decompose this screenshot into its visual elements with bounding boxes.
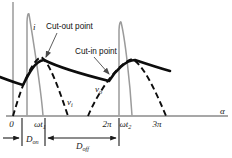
wt2-subscript: 2 bbox=[128, 123, 131, 130]
d-off-label: Doff bbox=[75, 141, 90, 152]
current-spike-2 bbox=[119, 22, 132, 116]
tick-wt1: ωt1 bbox=[34, 119, 46, 130]
vo-subscript: o bbox=[99, 88, 102, 95]
output-voltage-label: vo bbox=[95, 84, 102, 95]
alpha-axis-label: α bbox=[220, 106, 225, 116]
tick-2pi: 2π bbox=[102, 119, 112, 129]
wt1-subscript: 1 bbox=[43, 123, 46, 130]
cutout-point-label: Cut-out point bbox=[46, 22, 94, 31]
current-label: i bbox=[33, 22, 36, 32]
tick-wt2: ωt2 bbox=[120, 119, 132, 130]
tick-3pi: 3π bbox=[151, 119, 162, 129]
doff-subscript: off bbox=[83, 145, 91, 152]
tick-origin: 0 bbox=[9, 119, 14, 129]
cutout-arrow bbox=[46, 33, 57, 57]
cutin-arrow bbox=[94, 57, 109, 74]
cutin-point-label: Cut-in point bbox=[75, 47, 118, 56]
waveform-diagram: i Cut-out point Cut-in point vo vi 0 ωt1… bbox=[0, 0, 232, 158]
input-voltage-label: vi bbox=[67, 97, 73, 108]
don-subscript: on bbox=[33, 138, 39, 145]
diagram-canvas: i Cut-out point Cut-in point vo vi 0 ωt1… bbox=[0, 0, 232, 158]
vi-subscript: i bbox=[71, 101, 73, 108]
d-on-label: Don bbox=[25, 134, 39, 145]
